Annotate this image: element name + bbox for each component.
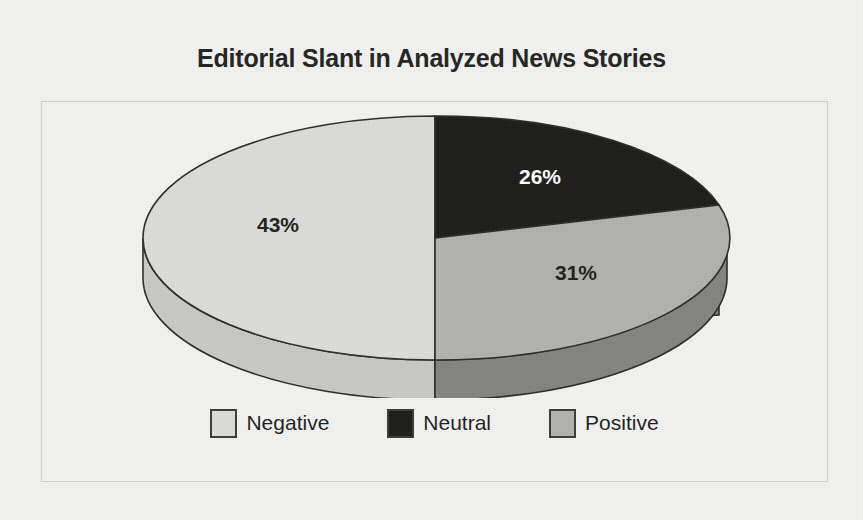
legend-label-positive: Positive (585, 411, 659, 435)
legend-swatch-negative-icon (210, 409, 237, 438)
slice-label-positive: 31% (555, 261, 597, 284)
slice-label-neutral: 26% (519, 165, 561, 188)
chart-legend: Negative Neutral Positive (41, 402, 828, 444)
pie-chart-figure: Editorial Slant in Analyzed News Stories… (0, 0, 863, 520)
legend-item-negative[interactable]: Negative (210, 409, 329, 438)
slice-label-negative: 43% (257, 213, 299, 236)
pie-chart-graphic: 43% 26% 31% (110, 108, 760, 398)
legend-item-positive[interactable]: Positive (549, 409, 659, 438)
page-title: Editorial Slant in Analyzed News Stories (0, 44, 863, 73)
legend-swatch-positive-icon (549, 409, 576, 438)
legend-item-neutral[interactable]: Neutral (387, 409, 491, 438)
legend-swatch-neutral-icon (387, 409, 414, 438)
legend-label-neutral: Neutral (423, 411, 491, 435)
legend-label-negative: Negative (246, 411, 329, 435)
